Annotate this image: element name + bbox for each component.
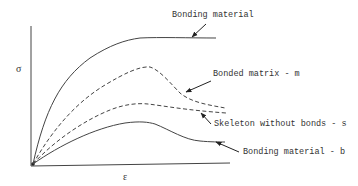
arrow-bonding-material-b	[216, 142, 239, 152]
curve-bonding-material-b	[33, 122, 225, 164]
label-bonding-material-b: Bonding material - b	[243, 147, 345, 157]
y-axis-label: σ	[16, 63, 22, 74]
curve-skeleton	[33, 104, 226, 164]
arrow-skeleton	[201, 113, 211, 124]
x-axis	[31, 163, 230, 166]
label-skeleton: Skeleton without bonds - s	[214, 119, 347, 129]
curve-bonded-matrix	[33, 67, 225, 164]
stress-strain-diagram: σ ε Bonding material Bonded matrix - m S…	[0, 0, 358, 186]
arrow-bonded-matrix	[186, 81, 211, 92]
label-bonding-material: Bonding material	[172, 10, 254, 20]
curve-bonding-material	[33, 38, 216, 164]
label-bonded-matrix: Bonded matrix - m	[213, 69, 300, 79]
arrow-bonding-material	[192, 24, 206, 37]
x-axis-label: ε	[123, 171, 127, 182]
